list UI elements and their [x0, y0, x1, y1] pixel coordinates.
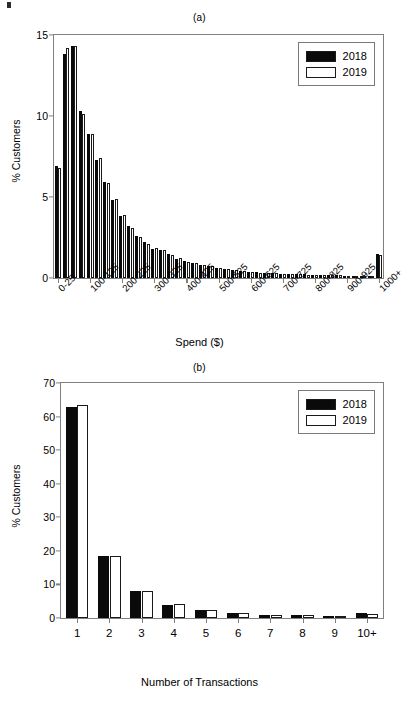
bar-2019 — [307, 275, 310, 278]
bar-group — [79, 111, 86, 278]
y-axis-label-b: % Customers — [10, 464, 22, 527]
y-tick-mark — [56, 617, 61, 618]
bar-group — [376, 254, 383, 278]
legend-row-2018: 2018 — [306, 396, 367, 412]
x-tick-mark — [206, 618, 207, 623]
x-tick-label: 2 — [106, 627, 112, 639]
bar-group — [162, 604, 185, 618]
legend-label-2018: 2018 — [343, 50, 367, 62]
bar-2018 — [127, 226, 130, 278]
bar-group — [98, 556, 121, 618]
x-axis-label-b: Number of Transactions — [0, 676, 399, 688]
legend-row-2019: 2019 — [306, 64, 367, 80]
plot-area-b: 010203040506070 12345678910+ 2018 2019 — [60, 382, 384, 619]
bar-2019 — [303, 615, 314, 618]
bar-2019 — [142, 591, 153, 618]
y-tick-mark — [56, 483, 61, 484]
bar-2018 — [71, 46, 74, 278]
bar-2019 — [367, 614, 378, 618]
x-tick-mark — [77, 618, 78, 623]
bar-2019 — [131, 228, 134, 278]
bar-2018 — [291, 615, 302, 618]
chart-panel-a: (a) % Customers 051015 0-25100-125200-22… — [0, 10, 399, 360]
bar-2018 — [95, 160, 98, 278]
bar-2018 — [79, 111, 82, 278]
plot-area-a: 051015 0-25100-125200-225300-325400-4255… — [53, 34, 384, 279]
x-axis-label-a: Spend ($) — [0, 336, 399, 348]
bar-2018 — [195, 610, 206, 618]
bar-2019 — [187, 262, 190, 278]
x-tick-mark — [270, 618, 271, 623]
bar-group — [71, 46, 78, 278]
x-tick-label: 1 — [74, 627, 80, 639]
bar-2018 — [63, 54, 66, 278]
bar-2019 — [123, 215, 126, 278]
bar-group — [55, 166, 62, 278]
bar-group — [66, 405, 89, 618]
legend-label-2018: 2018 — [343, 398, 367, 410]
y-axis-label-a: % Customers — [10, 119, 22, 182]
legend-row-2019: 2019 — [306, 412, 367, 428]
x-tick-label: 10+ — [357, 627, 377, 639]
x-tick-mark — [303, 618, 304, 623]
legend-swatch-2018-icon — [306, 51, 336, 62]
y-tick-mark — [49, 115, 54, 116]
y-tick-mark — [56, 517, 61, 518]
bar-group — [215, 268, 222, 278]
x-tick-mark — [174, 618, 175, 623]
x-tick-label: 7 — [267, 627, 273, 639]
bar-2018 — [55, 166, 58, 278]
x-tick-label: 8 — [299, 627, 305, 639]
bar-2019 — [219, 268, 222, 278]
bar-2018 — [87, 134, 90, 278]
page-artifact-mark — [7, 2, 11, 8]
legend-b: 2018 2019 — [298, 390, 375, 434]
bar-group — [127, 226, 134, 278]
panel-a-title: (a) — [0, 10, 399, 26]
x-tick-label: 5 — [203, 627, 209, 639]
bar-group — [63, 48, 70, 278]
bar-2018 — [151, 249, 154, 278]
bar-2019 — [155, 248, 158, 278]
legend-label-2019: 2019 — [343, 414, 367, 426]
legend-row-2018: 2018 — [306, 48, 367, 64]
bar-2019 — [379, 255, 382, 278]
x-tick-mark — [142, 618, 143, 623]
bar-2019 — [110, 556, 121, 618]
bar-2019 — [238, 613, 249, 618]
bar-2018 — [159, 250, 162, 278]
bar-2019 — [339, 275, 342, 278]
legend-swatch-2019-icon — [306, 67, 336, 78]
x-tick-label: 3 — [138, 627, 144, 639]
y-tick-mark — [56, 382, 61, 383]
bar-2018 — [227, 613, 238, 618]
bar-group — [130, 591, 153, 618]
bar-2019 — [335, 616, 346, 618]
bar-2019 — [206, 610, 217, 618]
bar-2018 — [259, 615, 270, 618]
x-tick-label: 6 — [235, 627, 241, 639]
x-tick-mark — [335, 618, 336, 623]
bar-2019 — [99, 158, 102, 278]
bar-2019 — [82, 114, 85, 278]
legend-swatch-2019-icon — [306, 415, 336, 426]
bar-2019 — [58, 168, 61, 278]
legend-a: 2018 2019 — [298, 42, 375, 86]
plot-wrapper-a: % Customers 051015 0-25100-125200-225300… — [0, 26, 399, 294]
bar-2019 — [77, 405, 88, 618]
y-tick-mark — [49, 34, 54, 35]
bar-2018 — [356, 613, 367, 618]
y-tick-mark — [49, 277, 54, 278]
y-tick-mark — [56, 416, 61, 417]
legend-label-2019: 2019 — [343, 66, 367, 78]
bar-2018 — [66, 407, 77, 618]
bar-2019 — [174, 604, 185, 618]
bar-2019 — [271, 615, 282, 618]
bar-2018 — [323, 616, 334, 618]
bar-2019 — [91, 134, 94, 278]
bar-group — [195, 610, 218, 618]
x-tick-label: 4 — [170, 627, 176, 639]
x-tick-mark — [238, 618, 239, 623]
y-tick-mark — [56, 450, 61, 451]
bar-2018 — [162, 605, 173, 618]
